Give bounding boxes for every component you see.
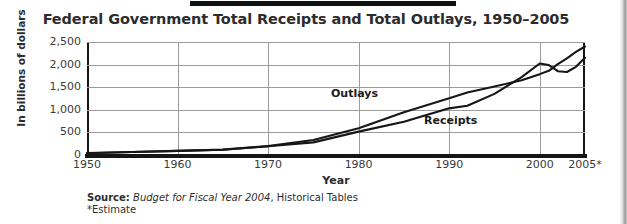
- line-receipts: [87, 58, 585, 153]
- source-title: Budget for Fiscal Year 2004: [133, 192, 270, 203]
- top-rule-divider: [190, 1, 456, 6]
- chart-title: Federal Government Total Receipts and To…: [0, 11, 612, 27]
- y-tick-label: 1,000: [35, 103, 81, 116]
- source-prefix: Source:: [87, 192, 130, 203]
- source-suffix: , Historical Tables: [270, 192, 357, 203]
- x-tick-label: 1950: [73, 158, 101, 171]
- x-tick-label: 1970: [254, 158, 282, 171]
- source-note: Source: Budget for Fiscal Year 2004, His…: [87, 192, 358, 204]
- x-tick-label: 2000: [526, 158, 554, 171]
- x-tick-label: 1990: [435, 158, 463, 171]
- page-edge-shadow: [619, 0, 627, 224]
- y-tick-label: 1,500: [35, 80, 81, 93]
- annotation-receipts: Receipts: [424, 114, 477, 127]
- x-axis-label: Year: [87, 174, 585, 187]
- y-tick-label: 500: [35, 125, 81, 138]
- x-tick-label: 1980: [345, 158, 373, 171]
- y-tick-label: 2,000: [35, 58, 81, 71]
- y-tick-label: 2,500: [35, 35, 81, 48]
- y-axis-label: In billions of dollars: [15, 8, 27, 128]
- x-tick-label: 1960: [164, 158, 192, 171]
- annotation-outlays: Outlays: [331, 87, 378, 100]
- x-axis-line: [85, 154, 587, 158]
- estimate-note: *Estimate: [87, 204, 136, 215]
- chart-figure: Federal Government Total Receipts and To…: [0, 0, 627, 224]
- y-axis-ticks: 2,5002,0001,5001,0005000: [33, 42, 81, 155]
- x-tick-label: 2005*: [568, 158, 602, 171]
